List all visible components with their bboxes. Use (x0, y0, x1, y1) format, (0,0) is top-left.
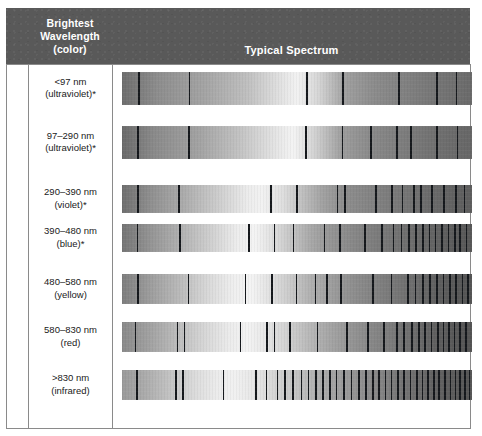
absorption-line (277, 370, 279, 400)
row-label-row-gt830: >830 nm(infrared) (29, 372, 112, 397)
absorption-line (402, 185, 404, 213)
absorption-line (248, 224, 250, 252)
absorption-line (435, 224, 437, 252)
absorption-line (292, 370, 294, 400)
absorption-line (429, 274, 431, 304)
absorption-line (306, 72, 308, 105)
header-column-typical-spectrum: Typical Spectrum (113, 8, 470, 64)
row-color-name: (yellow) (29, 289, 112, 302)
absorption-line (177, 322, 179, 352)
spectrum-table-figure: Brightest Wavelength (color) Typical Spe… (0, 0, 482, 436)
absorption-line (308, 370, 310, 400)
absorption-line (455, 185, 457, 213)
spectrum-band-row-480-580 (122, 274, 472, 304)
absorption-line (175, 370, 177, 400)
absorption-line (137, 224, 139, 252)
absorption-line (301, 370, 303, 400)
absorption-line (398, 72, 400, 105)
absorption-line (322, 370, 324, 400)
absorption-line (465, 322, 467, 352)
absorption-line (293, 224, 295, 252)
absorption-line (329, 370, 331, 400)
absorption-line (437, 322, 439, 352)
absorption-line (391, 185, 393, 213)
absorption-line (413, 185, 415, 213)
absorption-line (342, 126, 344, 159)
absorption-line (429, 224, 431, 252)
absorption-lines-group (122, 370, 472, 400)
absorption-line (393, 224, 395, 252)
spectrum-band-row-lt97 (122, 72, 472, 105)
absorption-line (372, 274, 374, 304)
absorption-lines-group (122, 185, 472, 213)
absorption-line (438, 370, 440, 400)
absorption-line (223, 370, 225, 400)
absorption-line (459, 370, 461, 400)
absorption-lines-group (122, 126, 472, 159)
absorption-line (367, 322, 369, 352)
absorption-line (443, 274, 445, 304)
absorption-line (245, 274, 247, 304)
absorption-line (396, 126, 398, 159)
absorption-line (370, 126, 372, 159)
absorption-line (454, 322, 456, 352)
absorption-line (274, 224, 276, 252)
absorption-line (375, 185, 377, 213)
absorption-lines-group (122, 322, 472, 352)
row-wavelength-range: <97 nm (29, 76, 112, 89)
absorption-line (424, 322, 426, 352)
absorption-line (410, 370, 412, 400)
absorption-line (178, 185, 180, 213)
table-bottom-rule (6, 428, 470, 429)
absorption-line (431, 322, 433, 352)
absorption-line (255, 370, 257, 400)
absorption-line (397, 370, 399, 400)
row-label-row-580-830: 580–830 nm(red) (29, 324, 112, 349)
absorption-line (266, 322, 268, 352)
row-wavelength-range: 480–580 nm (29, 276, 112, 289)
spectrum-band-row-gt830 (122, 370, 472, 400)
absorption-line (188, 126, 190, 159)
absorption-line (457, 126, 459, 159)
absorption-line (464, 185, 466, 213)
absorption-line (418, 322, 420, 352)
absorption-line (401, 224, 403, 252)
absorption-line (378, 370, 380, 400)
absorption-line (436, 126, 438, 159)
absorption-line (456, 72, 458, 105)
absorption-line (459, 322, 461, 352)
absorption-line (342, 72, 344, 105)
absorption-line (315, 370, 317, 400)
absorption-line (407, 274, 409, 304)
spectrum-band-row-290-390 (122, 185, 472, 213)
header-typical-spectrum-label: Typical Spectrum (244, 44, 338, 56)
absorption-line (182, 370, 184, 400)
absorption-line (324, 224, 326, 252)
absorption-line (420, 185, 422, 213)
spectrum-band-row-390-480 (122, 224, 472, 252)
row-label-row-390-480: 390–480 nm(blue)* (29, 225, 112, 250)
row-color-name: (violet)* (29, 199, 112, 212)
absorption-line (410, 126, 412, 159)
header-column-brightest-wavelength: Brightest Wavelength (color) (28, 8, 112, 64)
row-label-row-97-290: 97–290 nm(ultraviolet)* (29, 130, 112, 155)
absorption-line (449, 274, 451, 304)
absorption-line (305, 126, 307, 159)
absorption-line (467, 274, 469, 304)
absorption-line (433, 370, 435, 400)
row-wavelength-range: 390–480 nm (29, 225, 112, 238)
header-line-2: Wavelength (40, 30, 100, 43)
absorption-lines-group (122, 72, 472, 105)
absorption-line (464, 370, 466, 400)
row-wavelength-range: 97–290 nm (29, 130, 112, 143)
row-color-name: (blue)* (29, 238, 112, 251)
absorption-line (391, 370, 393, 400)
absorption-line (271, 274, 273, 304)
absorption-line (427, 370, 429, 400)
absorption-line (136, 370, 138, 400)
header-line-1: Brightest (47, 17, 94, 30)
absorption-line (137, 185, 139, 213)
absorption-line (315, 274, 317, 304)
absorption-line (179, 224, 181, 252)
absorption-line (416, 370, 418, 400)
